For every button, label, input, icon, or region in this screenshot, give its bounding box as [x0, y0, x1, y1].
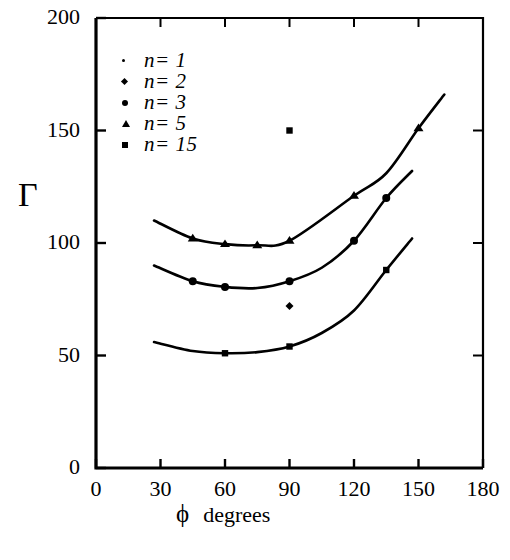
data-curves	[154, 95, 444, 354]
x-tick-label: 0	[66, 476, 126, 502]
legend-marker-triangle-icon	[122, 120, 144, 127]
legend-marker-small-diamond-icon	[122, 79, 144, 84]
chart-legend: n= 1n= 2n= 3n= 5n= 15	[122, 50, 197, 155]
legend-marker-round-dot-icon	[122, 100, 144, 106]
x-tick-label: 60	[195, 476, 255, 502]
x-axis-title-unit: degrees	[203, 502, 270, 527]
y-axis-title: Γ	[18, 178, 38, 212]
x-tick-label: 120	[324, 476, 384, 502]
y-tick-label: 50	[10, 342, 80, 368]
legend-marker-square-icon	[122, 142, 144, 148]
x-axis-title: ϕdegrees	[176, 500, 270, 528]
legend-label: n= 15	[144, 132, 197, 157]
legend-item: n= 15	[122, 134, 197, 155]
curve-n-5	[154, 95, 444, 246]
curve-n-15	[154, 239, 412, 354]
legend-item: n= 5	[122, 113, 197, 134]
x-tick-label: 30	[131, 476, 191, 502]
figure-container: Γ ϕdegrees n= 1n= 2n= 3n= 5n= 15 0501001…	[0, 0, 510, 560]
y-tick-label: 200	[10, 4, 80, 30]
legend-item: n= 3	[122, 92, 197, 113]
x-tick-label: 150	[389, 476, 449, 502]
x-tick-label: 180	[453, 476, 510, 502]
legend-marker-tiny-dot-icon	[122, 59, 144, 62]
legend-item: n= 2	[122, 71, 197, 92]
x-axis-title-symbol: ϕ	[176, 500, 189, 527]
curve-n-3	[154, 171, 412, 288]
y-tick-label: 100	[10, 229, 80, 255]
y-tick-label: 150	[10, 117, 80, 143]
data-markers	[188, 124, 424, 357]
legend-item: n= 1	[122, 50, 197, 71]
x-tick-label: 90	[260, 476, 320, 502]
